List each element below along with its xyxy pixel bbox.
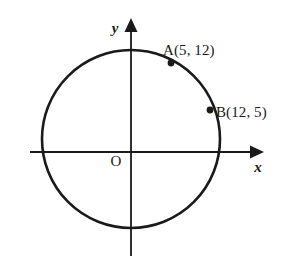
y-axis-label: y <box>110 20 119 36</box>
y-axis-arrowhead <box>125 18 138 32</box>
point-b-marker <box>207 107 214 114</box>
x-axis-arrowhead <box>250 146 264 159</box>
point-a-marker <box>168 60 175 67</box>
point-a-label: A(5, 12) <box>163 42 215 59</box>
origin-label: O <box>111 153 122 169</box>
coordinate-plane-svg: y x O A(5, 12) B(12, 5) <box>0 0 285 265</box>
point-b-label: B(12, 5) <box>216 104 267 121</box>
x-axis-label: x <box>253 159 262 175</box>
circle-diagram-figure: y x O A(5, 12) B(12, 5) <box>0 0 285 265</box>
